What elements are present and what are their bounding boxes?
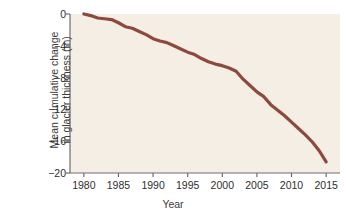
x-tick-label: 1985 xyxy=(107,179,130,191)
x-tick-label: 1995 xyxy=(176,179,199,191)
x-axis-title: Year xyxy=(0,198,346,210)
x-tick-label: 2005 xyxy=(245,179,268,191)
x-tick-label: 2015 xyxy=(314,179,337,191)
x-axis-tick-labels: 19801985199019952000200520102015 xyxy=(0,0,346,219)
x-tick-label: 2010 xyxy=(280,179,303,191)
glacier-thickness-chart: Mean cumulative change in glacier thickn… xyxy=(0,0,346,219)
x-tick-label: 1990 xyxy=(141,179,164,191)
x-tick-label: 1980 xyxy=(72,179,95,191)
x-tick-label: 2000 xyxy=(211,179,234,191)
